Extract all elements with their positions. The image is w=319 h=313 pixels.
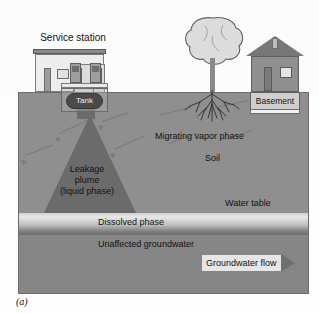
house-chimney [272, 38, 278, 49]
tank-label: Tank [66, 94, 103, 108]
dissolved-phase-label: Dissolved phase [98, 217, 164, 228]
tree-roots-icon [182, 90, 242, 124]
groundwater-flow-label: Groundwater flow [202, 255, 281, 271]
basement-floor-slab [250, 109, 300, 114]
basement-label: Basement [250, 93, 300, 110]
service-station-label: Service station [26, 32, 120, 43]
house-body [251, 56, 299, 92]
fuel-hose-icon [81, 68, 82, 83]
flow-arrow-head-icon [281, 254, 295, 272]
house-window [280, 67, 292, 78]
house-icon [246, 36, 304, 92]
fuel-pump-icon [90, 63, 101, 83]
house-door [264, 67, 272, 91]
groundwater-flow-arrow: Groundwater flow [202, 255, 295, 271]
contamination-diagram: Service station [0, 0, 319, 313]
leakage-plume-label-line3: (liquid phase) [42, 186, 132, 197]
soil-label: Soil [205, 153, 220, 164]
station-door [44, 68, 51, 92]
water-table-label: Water table [225, 198, 271, 209]
tree-trunk [210, 58, 215, 94]
leakage-plume-label-line2: plume [52, 175, 122, 186]
unaffected-groundwater-label: Unaffected groundwater [98, 239, 194, 250]
station-window [57, 69, 69, 79]
fuel-pump-icon [70, 63, 81, 83]
leakage-plume-label-line1: Leakage [52, 164, 122, 175]
fuel-hose-icon [101, 68, 102, 83]
fuel-pump-display [72, 66, 79, 72]
fuel-pump-display [92, 66, 99, 72]
migrating-vapor-phase-label: Migrating vapor phase [155, 131, 244, 142]
subsurface-cross-section: Migrating vapor phase Soil Leakage plume… [18, 92, 309, 294]
figure-caption: (a) [16, 296, 28, 307]
